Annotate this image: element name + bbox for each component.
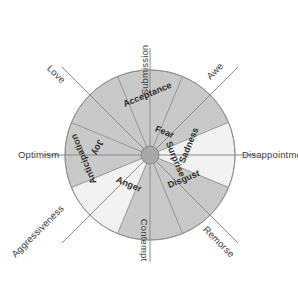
wheel-hub: [141, 146, 159, 164]
dyad-label-disappointment: Disappointment: [242, 149, 298, 160]
dyad-label-contempt: Contempt: [139, 219, 150, 261]
dyad-label-optimism: Optimism: [18, 149, 59, 160]
emotion-wheel-diagram: Fear Surprise Sadness Disgust Anger Anti…: [0, 0, 298, 303]
dyad-label-submission: Submission: [139, 45, 150, 96]
